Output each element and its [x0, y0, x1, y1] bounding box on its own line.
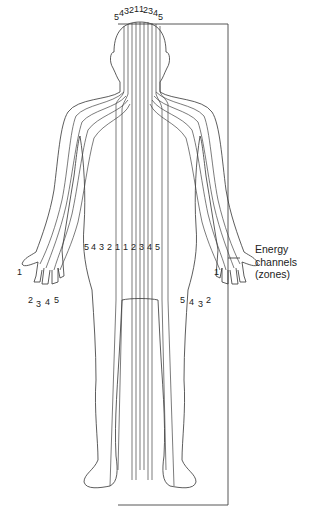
- zone-lines: [40, 22, 240, 486]
- label-line: channels: [255, 256, 297, 269]
- svg-text:2: 2: [131, 242, 136, 252]
- svg-text:5: 5: [54, 295, 59, 305]
- svg-text:1: 1: [123, 242, 128, 252]
- energy-channels-label: Energy channels (zones): [255, 243, 297, 281]
- svg-text:3: 3: [198, 299, 203, 309]
- svg-text:3: 3: [139, 242, 144, 252]
- svg-text:5: 5: [84, 242, 89, 252]
- svg-text:4: 4: [91, 242, 96, 252]
- svg-text:1: 1: [214, 267, 219, 277]
- right-hand-zone-numbers: 1 5 4 3 2: [180, 267, 219, 309]
- svg-text:5: 5: [155, 242, 160, 252]
- svg-text:5: 5: [158, 12, 163, 22]
- svg-text:2: 2: [28, 295, 33, 305]
- head-zone-numbers: 5 4 3 2 1 1 2 3 4 5: [114, 4, 163, 22]
- left-hand-zone-numbers: 1 2 3 4 5: [17, 267, 59, 309]
- svg-text:4: 4: [45, 297, 50, 307]
- svg-text:1: 1: [115, 242, 120, 252]
- svg-text:5: 5: [180, 295, 185, 305]
- svg-text:1: 1: [17, 267, 22, 277]
- label-line: (zones): [255, 268, 297, 281]
- svg-text:4: 4: [189, 297, 194, 307]
- svg-text:4: 4: [147, 242, 152, 252]
- svg-text:3: 3: [99, 242, 104, 252]
- svg-text:2: 2: [206, 295, 211, 305]
- svg-text:2: 2: [107, 242, 112, 252]
- label-line: Energy: [255, 243, 297, 256]
- svg-text:3: 3: [36, 299, 41, 309]
